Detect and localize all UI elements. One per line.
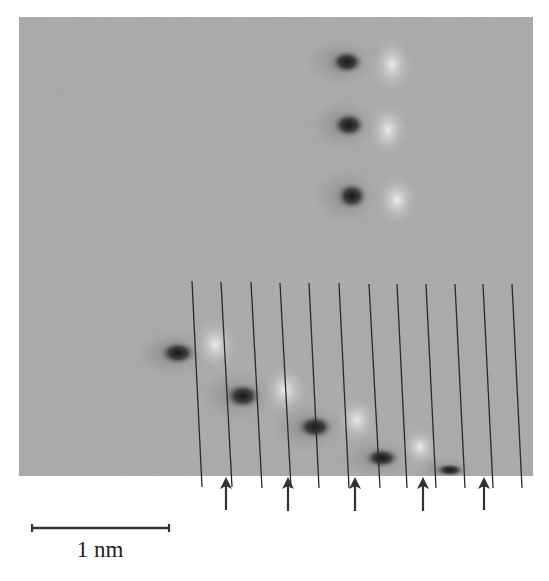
- scale-bar-label: 1 nm: [60, 537, 140, 563]
- guide-line: [221, 282, 232, 487]
- lattice-guide-lines: [192, 281, 522, 488]
- up-arrow-icon: [349, 477, 361, 511]
- guide-line: [339, 283, 349, 488]
- guide-line: [192, 281, 202, 487]
- arrow-markers: [220, 477, 490, 511]
- guide-line: [309, 283, 319, 488]
- up-arrow-icon: [220, 477, 232, 510]
- up-arrow-icon: [417, 477, 429, 511]
- guide-line: [251, 282, 262, 488]
- guide-line: [397, 284, 407, 488]
- up-arrow-icon: [282, 477, 294, 511]
- annotation-overlay: [0, 0, 549, 581]
- scale-bar: [32, 524, 169, 532]
- guide-line: [455, 284, 465, 488]
- guide-line: [512, 284, 522, 488]
- guide-line: [426, 284, 436, 488]
- stm-figure: 1 nm: [0, 0, 549, 581]
- up-arrow-icon: [478, 477, 490, 510]
- guide-line: [369, 284, 380, 488]
- guide-line: [280, 283, 291, 488]
- guide-line: [483, 284, 493, 488]
